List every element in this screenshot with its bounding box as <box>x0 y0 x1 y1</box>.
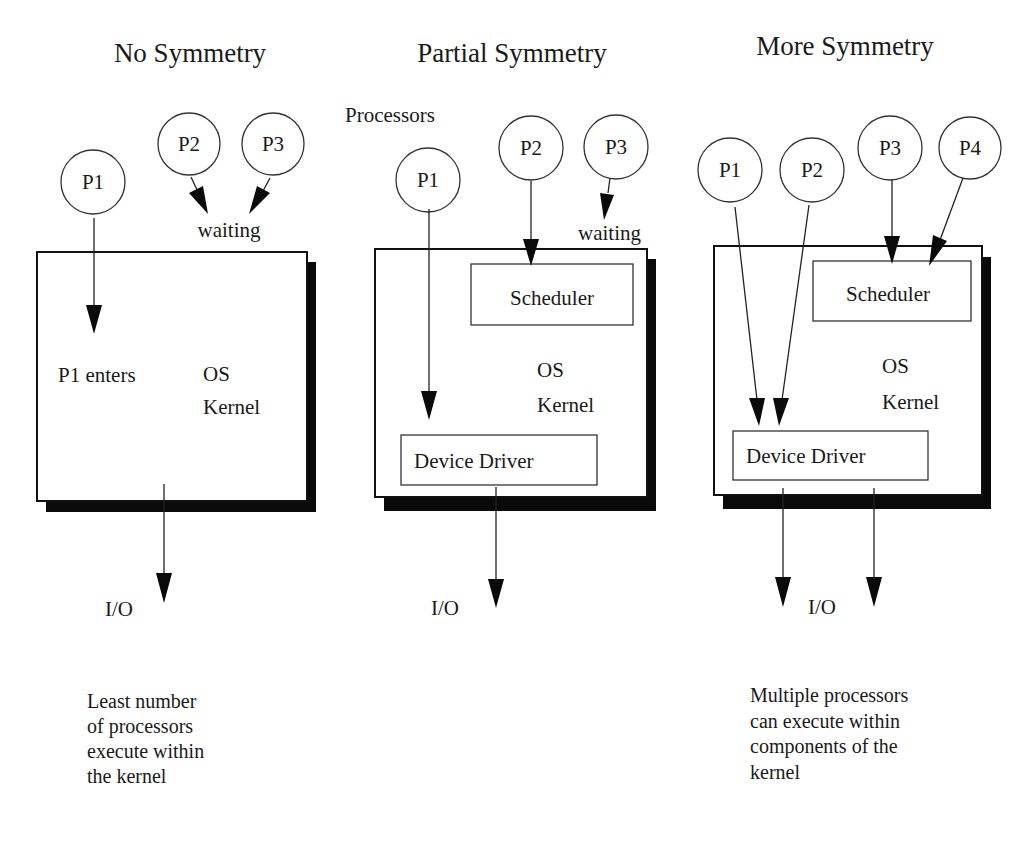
description-line: Multiple processors <box>750 684 909 707</box>
processor-label: P2 <box>520 136 542 160</box>
arrow-p3-waiting <box>600 178 614 220</box>
processor-label: P2 <box>801 158 823 182</box>
kernel-label-os: OS <box>882 354 909 378</box>
kernel-label-os: OS <box>203 362 230 386</box>
kernel-label-kernel: Kernel <box>537 393 594 417</box>
processor-label: P3 <box>879 136 901 160</box>
kernel-label-kernel: Kernel <box>882 390 939 414</box>
panel-title: More Symmetry <box>756 31 934 61</box>
symmetry-diagram: No Symmetry P1 P2 P3 <box>0 0 1030 841</box>
arrowhead-icon <box>156 573 172 603</box>
panel-title: No Symmetry <box>114 38 267 68</box>
io-label: I/O <box>105 597 133 621</box>
io-label: I/O <box>431 596 459 620</box>
processor-label: P2 <box>178 132 200 156</box>
processor-node: P4 <box>939 117 1001 179</box>
description-line: components of the <box>750 735 898 758</box>
description-line: execute within <box>87 740 204 762</box>
description-line: kernel <box>750 761 800 783</box>
processor-label: P3 <box>605 135 627 159</box>
device-driver-label: Device Driver <box>414 449 534 473</box>
processor-label: P1 <box>82 170 104 194</box>
arrowhead-icon <box>249 186 270 214</box>
arrowhead-icon <box>488 579 504 608</box>
panel-no-symmetry: No Symmetry P1 P2 P3 <box>37 38 316 787</box>
processor-node: P1 <box>698 138 762 202</box>
processor-label: P1 <box>417 168 439 192</box>
io-label: I/O <box>808 595 836 619</box>
processor-node: P2 <box>499 116 563 180</box>
scheduler-label: Scheduler <box>510 286 594 310</box>
processor-node: P1 <box>61 150 125 214</box>
description-line: can execute within <box>750 710 900 732</box>
processor-label: P4 <box>959 136 982 160</box>
arrowhead-icon <box>775 577 791 607</box>
kernel-label-os: OS <box>537 358 564 382</box>
description-line: of processors <box>87 715 193 738</box>
processor-node: P3 <box>584 115 648 179</box>
panel-description: Multiple processors can execute within c… <box>750 684 909 783</box>
processor-label: P3 <box>262 132 284 156</box>
processor-node: P3 <box>242 113 304 175</box>
processors-group-label: Processors <box>345 103 435 127</box>
processor-label: P1 <box>719 158 741 182</box>
panel-more-symmetry: More Symmetry P1 P2 P3 P4 Scheduler Devi… <box>698 31 1001 783</box>
arrowhead-icon <box>600 193 614 220</box>
processor-node: P1 <box>396 148 460 212</box>
panel-description: Least number of processors execute withi… <box>87 690 204 787</box>
processor-node: P2 <box>780 138 844 202</box>
kernel-label-kernel: Kernel <box>203 395 260 419</box>
arrow-p2-waiting <box>189 177 208 214</box>
arrowhead-icon <box>866 577 882 607</box>
device-driver-label: Device Driver <box>746 444 866 468</box>
waiting-label: waiting <box>198 218 261 242</box>
processor-node: P3 <box>858 116 922 180</box>
panel-partial-symmetry: Partial Symmetry Processors P1 P2 P3 Sch… <box>345 38 656 620</box>
scheduler-label: Scheduler <box>846 282 930 306</box>
arrowhead-icon <box>189 186 208 214</box>
description-line: the kernel <box>87 765 167 787</box>
arrow-p3-waiting <box>249 178 270 214</box>
processor-node: P2 <box>158 113 220 175</box>
description-line: Least number <box>87 690 197 712</box>
waiting-label: waiting <box>578 221 641 245</box>
enter-label: P1 enters <box>58 363 136 387</box>
panel-title: Partial Symmetry <box>417 38 607 68</box>
